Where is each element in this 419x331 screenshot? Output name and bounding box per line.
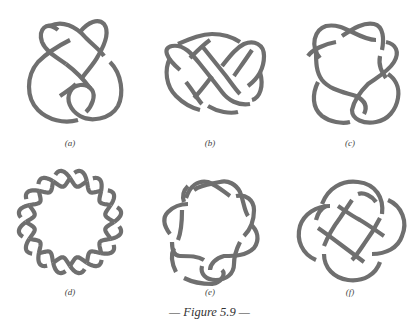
knot-b-strand: [194, 76, 212, 98]
knot-d-strand: [55, 171, 70, 178]
knot-e-strand: [178, 210, 182, 240]
knot-c-strand: [316, 50, 366, 114]
knot-b-strand: [208, 106, 238, 113]
knot-e-strand: [194, 181, 248, 216]
knot-d-strand: [53, 263, 65, 273]
knot-panel-c: (c): [280, 0, 419, 150]
knot-d-strand: [39, 181, 53, 192]
knot-panel-d: (d): [0, 160, 140, 310]
knot-d-strand: [101, 245, 114, 254]
knot-d-strand: [19, 205, 29, 217]
figure-page: { "figure": { "caption": "— Figure 5.9 —…: [0, 0, 419, 331]
knot-d-strand: [114, 207, 121, 222]
knot-d-strand: [99, 191, 110, 205]
knot-b-strand: [234, 50, 252, 76]
knot-d-strand: [87, 251, 101, 262]
knot-d-strand: [70, 266, 85, 273]
knot-diagram-b: [140, 0, 280, 130]
panel-label-b: (b): [140, 138, 280, 148]
knot-d-strand: [70, 257, 87, 266]
knot-d-strand: [38, 253, 47, 266]
knot-c-strand: [352, 42, 398, 123]
knot-e-strand: [172, 242, 204, 260]
knot-f-strand: [358, 193, 376, 202]
knot-c-strand: [308, 42, 336, 56]
knot-d-strand: [93, 178, 102, 191]
panel-label-a: (a): [0, 138, 140, 148]
knot-panel-a: (a): [0, 0, 140, 150]
knot-diagram-d: [0, 160, 140, 290]
knot-e-strand: [164, 204, 188, 234]
knot-d-strand: [111, 226, 121, 238]
panel-label-f: (f): [280, 287, 419, 297]
knot-d-strand: [74, 171, 86, 181]
knot-panel-b: (b): [140, 0, 280, 150]
knot-diagram-e: [140, 160, 280, 290]
knot-e-strand: [202, 242, 240, 280]
knot-diagram-f: [280, 160, 419, 290]
panel-label-e: (e): [140, 287, 280, 297]
knot-d-strand: [29, 239, 40, 253]
knot-c-strand: [314, 25, 376, 58]
panel-label-d: (d): [0, 287, 140, 297]
knot-d-strand: [53, 178, 70, 187]
knot-d-strand: [105, 205, 114, 222]
knot-d-strand: [19, 222, 26, 237]
knot-diagram-a: [0, 0, 140, 130]
knot-d-strand: [26, 222, 35, 239]
knot-panel-e: (e): [140, 160, 280, 310]
knot-a-strand: [80, 21, 106, 78]
panel-label-c: (c): [280, 138, 419, 148]
knot-d-strand: [26, 190, 39, 199]
figure-caption: — Figure 5.9 —: [0, 305, 419, 320]
knot-b-strand: [167, 58, 200, 110]
knot-panel-f: (f): [280, 160, 419, 310]
knot-diagram-c: [280, 0, 419, 130]
